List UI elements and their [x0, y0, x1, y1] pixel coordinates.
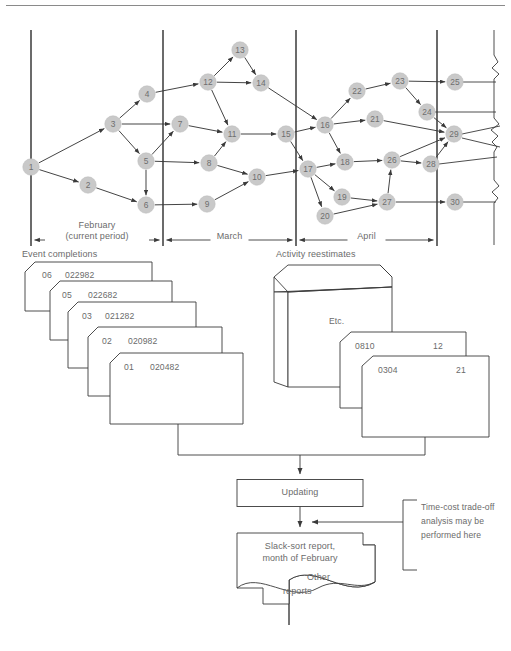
activity-reestimates-title: Activity reestimates	[276, 249, 356, 260]
network-node-22[interactable]: 22	[349, 83, 365, 99]
node-label: 11	[228, 129, 237, 139]
edge-1-3	[39, 129, 105, 163]
event-card-code: 06	[42, 270, 52, 281]
timecost-annotation-line1: Time-cost trade-off	[421, 502, 495, 513]
node-label: 2	[86, 180, 91, 190]
edge-13-14	[245, 57, 256, 74]
event-completions-title: Event completions	[22, 249, 97, 260]
edge-26-29	[400, 138, 445, 157]
node-label: 7	[178, 119, 183, 129]
timecost-annotation-line3: performed here	[421, 530, 481, 541]
network-nodes: 1234567891011121314151617181920212223242…	[23, 42, 463, 224]
network-node-20[interactable]: 20	[317, 208, 333, 224]
edge-19-27	[351, 198, 378, 201]
network-node-4[interactable]: 4	[139, 86, 155, 102]
edge-9-10	[215, 182, 249, 200]
activity-card-value: 12	[433, 341, 443, 352]
edge-27-26	[388, 170, 391, 194]
network-node-15[interactable]: 15	[278, 126, 294, 142]
node-label: 22	[352, 86, 362, 96]
activity-card-value: 21	[456, 365, 466, 376]
edge-14-16	[268, 88, 316, 120]
network-node-28[interactable]: 28	[423, 156, 439, 172]
network-node-6[interactable]: 6	[138, 197, 154, 213]
node-label: 8	[207, 158, 212, 168]
network-node-9[interactable]: 9	[199, 196, 215, 212]
network-node-12[interactable]: 12	[200, 74, 216, 90]
node-label: 29	[449, 129, 459, 139]
event-card-code: 03	[82, 311, 92, 322]
edge-3-5	[119, 131, 140, 154]
edge-21-29	[384, 121, 445, 133]
node-label: 15	[281, 129, 291, 139]
timeline-label-march: March	[163, 231, 296, 242]
network-node-5[interactable]: 5	[138, 153, 154, 169]
network-node-21[interactable]: 21	[367, 111, 383, 127]
network-edges	[39, 57, 448, 214]
event-card-date: 020482	[150, 362, 179, 373]
other-reports-line1: Other	[307, 572, 330, 583]
node-label: 23	[395, 76, 405, 86]
network-node-27[interactable]: 27	[379, 194, 395, 210]
node-label: 1	[29, 162, 34, 172]
edge-10-17	[266, 171, 299, 176]
node-label: 20	[320, 211, 330, 221]
network-node-1[interactable]: 1	[23, 159, 39, 175]
report-title-line2: month of February	[237, 553, 363, 564]
network-node-2[interactable]: 2	[80, 177, 96, 193]
edge-6-9	[155, 204, 197, 205]
node-label: 12	[203, 77, 213, 87]
network-node-30[interactable]: 30	[447, 194, 463, 210]
network-node-7[interactable]: 7	[172, 116, 188, 132]
timeline-label-april: April	[296, 231, 437, 242]
edge-3-4	[120, 100, 140, 118]
event-card-code: 05	[62, 290, 72, 301]
node-label: 16	[320, 120, 330, 130]
node-label: 21	[370, 114, 380, 124]
node-label: 5	[144, 156, 149, 166]
edge-8-10	[217, 165, 247, 174]
timecost-annotation-line2: analysis may be	[421, 516, 484, 527]
node-label: 6	[144, 200, 149, 210]
node-label: 14	[256, 78, 266, 88]
node-label: 18	[340, 157, 350, 167]
activity-card-code: 0810	[355, 341, 375, 352]
timeline-label-february-line2: (current period)	[31, 231, 163, 242]
edge-24-29	[434, 118, 447, 128]
network-node-17[interactable]: 17	[300, 161, 316, 177]
node-label: 24	[422, 107, 432, 117]
edge-15-16	[295, 127, 316, 132]
network-node-3[interactable]: 3	[105, 116, 121, 132]
node-label: 25	[450, 77, 460, 87]
block-left-face	[274, 292, 288, 387]
edge-2-6	[96, 188, 136, 202]
network-node-8[interactable]: 8	[201, 155, 217, 171]
event-card-code: 02	[102, 336, 112, 347]
node-label: 19	[337, 192, 347, 202]
network-node-14[interactable]: 14	[253, 75, 269, 91]
network-node-24[interactable]: 24	[419, 104, 435, 120]
node-label: 3	[111, 119, 116, 129]
figure-root: 1234567891011121314151617181920212223242…	[0, 0, 511, 651]
updating-label: Updating	[237, 487, 363, 498]
node-label: 10	[252, 172, 262, 182]
edge-1-2	[39, 170, 78, 182]
network-node-26[interactable]: 26	[384, 152, 400, 168]
network-node-23[interactable]: 23	[392, 73, 408, 89]
edge-17-18	[317, 164, 336, 168]
network-node-29[interactable]: 29	[446, 126, 462, 142]
network-node-11[interactable]: 11	[224, 126, 240, 142]
edge-18-26	[354, 160, 382, 161]
network-node-25[interactable]: 25	[447, 74, 463, 90]
node-label: 17	[303, 164, 313, 174]
network-node-16[interactable]: 16	[317, 117, 333, 133]
network-node-19[interactable]: 19	[334, 189, 350, 205]
edge-20-27	[334, 204, 378, 214]
event-card-date: 022982	[65, 270, 94, 281]
network-node-13[interactable]: 13	[232, 42, 248, 58]
network-node-18[interactable]: 18	[337, 154, 353, 170]
node-label: 13	[235, 45, 245, 55]
right-tail-lines	[435, 82, 500, 202]
network-node-10[interactable]: 10	[249, 169, 265, 185]
edge-16-18	[329, 133, 340, 154]
